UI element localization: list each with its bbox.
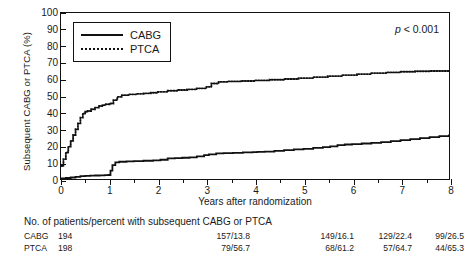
x-tick-label: 2 [139,186,179,196]
x-tick-mark [134,179,135,183]
x-tick-mark [378,179,379,183]
risk-row-group: PTCA [24,243,58,255]
y-tick-label: 80 [47,42,61,52]
x-tick-mark [427,179,428,183]
risk-table: CABG194157/13.8149/16.1129/22.499/26.5PT… [24,231,464,254]
legend-swatch-dotted-icon [81,48,123,50]
curve-cabg [61,135,449,179]
risk-value-t3: 57/64.7 [354,243,412,255]
y-tick-label: 100 [41,8,61,18]
x-tick-label: 5 [285,186,325,196]
risk-value-t0: 198 [58,243,132,255]
legend-swatch-solid-icon [81,34,123,36]
y-tick-label: 10 [47,159,61,169]
x-tick-label: 3 [187,186,227,196]
x-tick-label: 6 [334,186,374,196]
y-tick-label: 90 [47,25,61,35]
p-value-annotation: p < 0.001 [395,23,439,35]
y-tick-label: 40 [47,109,61,119]
y-axis-title: Subsequent CABG or PTCA (%) [21,12,32,192]
risk-value-t3: 129/22.4 [354,231,412,243]
legend-label-cabg: CABG [130,30,161,41]
risk-value-t1: 157/13.8 [132,231,250,243]
legend-item-ptca: PTCA [81,42,161,56]
y-tick-label: 30 [47,126,61,136]
y-tick-mark [61,13,66,14]
y-tick-label: 20 [47,142,61,152]
y-tick-mark [61,164,66,165]
plot-area: 0102030405060708090100 012345678 CABG PT… [60,12,450,180]
y-tick-mark [61,147,66,148]
x-tick-mark [280,179,281,183]
risk-row-group: CABG [24,231,58,243]
legend-box: CABG PTCA [73,22,171,62]
risk-value-t4: 44/65.3 [412,243,464,255]
x-tick-mark [232,179,233,183]
legend-label-ptca: PTCA [130,44,159,55]
risk-value-t2: 68/61.2 [250,243,354,255]
risk-table-header: No. of patients/percent with subsequent … [24,216,464,227]
risk-value-t2: 149/16.1 [250,231,354,243]
kaplan-meier-figure: Subsequent CABG or PTCA (%) 010203040506… [0,0,470,272]
y-tick-label: 50 [47,92,61,102]
table-row: CABG194157/13.8149/16.1129/22.499/26.5 [24,231,464,243]
p-value-text: < 0.001 [401,23,439,35]
table-row: PTCA19879/56.768/61.257/64.744/65.3 [24,243,464,255]
y-tick-label: 60 [47,75,61,85]
x-tick-label: 0 [41,186,81,196]
y-tick-mark [61,113,66,114]
risk-value-t0: 194 [58,231,132,243]
legend-item-cabg: CABG [81,28,161,42]
risk-value-t4: 99/26.5 [412,231,464,243]
y-tick-mark [61,80,66,81]
y-tick-mark [61,97,66,98]
risk-value-t1: 79/56.7 [132,243,250,255]
x-tick-label: 7 [382,186,422,196]
x-tick-mark [329,179,330,183]
x-tick-mark [183,179,184,183]
x-tick-label: 4 [236,186,276,196]
y-tick-mark [61,130,66,131]
y-tick-mark [61,29,66,30]
y-tick-mark [61,63,66,64]
x-tick-mark [85,179,86,183]
risk-table-block: No. of patients/percent with subsequent … [24,216,464,254]
x-axis-title: Years after randomization [60,196,450,207]
y-tick-label: 70 [47,58,61,68]
x-tick-label: 8 [431,186,470,196]
x-tick-label: 1 [90,186,130,196]
y-tick-mark [61,46,66,47]
